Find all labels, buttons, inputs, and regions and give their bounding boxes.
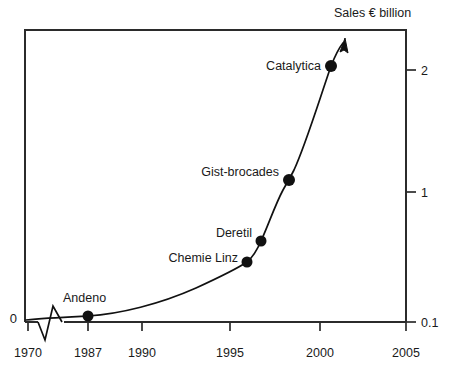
x-label-1990: 1990 — [128, 346, 156, 360]
chart-figure: Sales € billion Andeno Chemie Linz Deret… — [0, 0, 452, 369]
y-label-zero: 0 — [10, 311, 17, 326]
x-label-1995: 1995 — [216, 346, 244, 360]
data-point-chemie-linz — [242, 257, 253, 268]
data-point-gist-brocades — [283, 174, 295, 186]
x-label-2005: 2005 — [392, 346, 420, 360]
y-label-0-1: 0.1 — [421, 316, 438, 330]
label-deretil: Deretil — [216, 226, 252, 240]
data-point-andeno — [83, 311, 94, 322]
label-gist-brocades: Gist-brocades — [201, 165, 279, 179]
growth-curve — [26, 43, 343, 320]
data-point-deretil — [256, 236, 267, 247]
x-label-2000: 2000 — [306, 346, 334, 360]
y-label-2: 2 — [421, 64, 428, 78]
x-label-1970: 1970 — [14, 346, 42, 360]
axis-break-zigzag — [38, 306, 62, 340]
label-andeno: Andeno — [63, 291, 106, 305]
chart-title: Sales € billion — [334, 6, 411, 20]
x-label-1987: 1987 — [74, 346, 102, 360]
label-catalytica: Catalytica — [266, 59, 321, 73]
sales-growth-chart: Sales € billion Andeno Chemie Linz Deret… — [0, 0, 452, 369]
data-point-catalytica — [325, 60, 337, 72]
y-label-1: 1 — [421, 186, 428, 200]
label-chemie-linz: Chemie Linz — [169, 251, 238, 265]
